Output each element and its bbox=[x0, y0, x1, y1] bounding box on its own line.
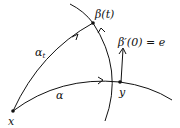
point-x bbox=[11, 109, 15, 113]
label-alpha: α bbox=[56, 89, 64, 102]
curve-alpha-t bbox=[13, 23, 93, 111]
arrowhead-icon bbox=[72, 34, 78, 40]
label-beta-t: β(t) bbox=[94, 8, 114, 21]
label-alpha-t: αt bbox=[35, 46, 45, 60]
point-beta-t bbox=[91, 21, 95, 25]
curve-beta bbox=[70, 4, 112, 121]
point-y bbox=[118, 80, 122, 84]
curve-alpha bbox=[13, 81, 172, 111]
geodesic-diagram: x y β(t) α αt β′(0) = e bbox=[0, 0, 180, 128]
label-y: y bbox=[118, 86, 126, 99]
tangent-vector-e bbox=[121, 49, 123, 82]
arrowhead-icon bbox=[98, 77, 103, 84]
label-x: x bbox=[8, 115, 15, 128]
label-vector-e: β′(0) = e bbox=[117, 36, 166, 49]
